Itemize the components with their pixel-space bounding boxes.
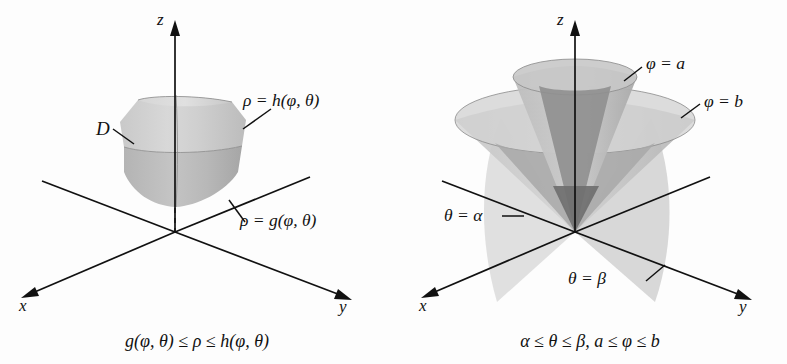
right-x-axis-label: x [419,297,427,314]
z-axis-arrowhead [170,20,180,36]
left-y-axis-label: y [339,298,347,315]
right-z-axis-label: z [557,11,564,28]
y-axis [175,232,343,296]
inner-surface-label: ρ = g(φ, θ) [240,212,316,230]
z-axis-arrowhead [570,20,580,36]
x-axis [30,232,175,294]
solid-region-D [120,95,246,207]
left-diagram-svg [0,0,394,364]
right-y-axis-label: y [739,298,747,315]
panel-right-cone-wedge-region: z x y φ = a φ = b θ = α θ = β α ≤ θ ≤ β,… [393,0,787,364]
left-z-axis-label: z [157,11,164,28]
right-diagram-svg [393,0,787,364]
outer-cone-label: φ = b [704,93,743,111]
right-caption: α ≤ θ ≤ β, a ≤ φ ≤ b [393,332,787,350]
theta-beta-label: θ = β [568,270,606,288]
inner-cone-label: φ = a [646,55,685,73]
left-x-axis-label: x [19,297,27,314]
region-label-D: D [96,119,110,138]
figure-root: z x y D ρ = h(φ, θ) ρ = g(φ, θ) g(φ, θ) … [0,0,787,364]
left-caption: g(φ, θ) ≤ ρ ≤ h(φ, θ) [0,332,394,350]
outer-surface-label: ρ = h(φ, θ) [243,92,319,110]
panel-left-rho-region: z x y D ρ = h(φ, θ) ρ = g(φ, θ) g(φ, θ) … [0,0,394,364]
leader-outer-surface [243,109,271,129]
theta-alpha-label: θ = α [444,207,482,225]
inner-surface-lower [124,146,242,207]
